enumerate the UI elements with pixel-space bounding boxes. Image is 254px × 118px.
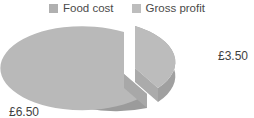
legend-item-gross-profit[interactable]: Gross profit — [132, 3, 205, 15]
pie-plot-area: £3.50 £6.50 — [0, 20, 254, 118]
chart-legend: Food cost Gross profit — [0, 3, 254, 15]
legend-label-food-cost: Food cost — [63, 3, 114, 15]
legend-swatch-gross-profit-icon — [132, 4, 141, 13]
legend-label-gross-profit: Gross profit — [146, 3, 205, 15]
data-label-food-cost: £6.50 — [9, 106, 39, 118]
pie-svg — [0, 20, 254, 118]
pie-slice-food-cost-top — [0, 26, 147, 110]
pie-chart-figure: Food cost Gross profit — [0, 0, 254, 118]
data-label-gross-profit: £3.50 — [218, 50, 248, 62]
legend-item-food-cost[interactable]: Food cost — [49, 3, 114, 15]
legend-swatch-food-cost-icon — [49, 4, 58, 13]
pie-slice-food-cost[interactable] — [0, 26, 147, 111]
